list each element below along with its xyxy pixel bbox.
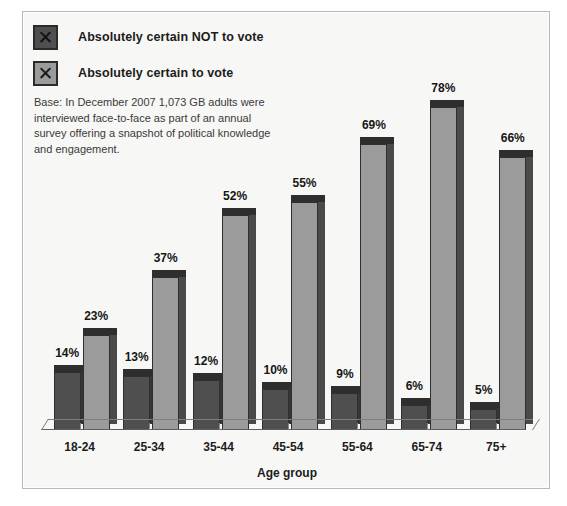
bar-top-face bbox=[54, 365, 81, 372]
bar-top-corner bbox=[526, 150, 533, 157]
x-axis-tick bbox=[496, 423, 497, 430]
bar-value-label: 78% bbox=[431, 81, 455, 95]
bar-75plus-series2: 66% bbox=[499, 157, 526, 430]
bar-top-corner bbox=[387, 137, 394, 144]
bar-side-face bbox=[318, 196, 325, 424]
bar-front-face bbox=[83, 335, 110, 430]
x-axis-tick bbox=[80, 423, 81, 430]
bar-65-74-series2: 78% bbox=[430, 107, 457, 430]
bar-35-44-series2: 52% bbox=[222, 215, 249, 430]
axis-floor bbox=[41, 419, 533, 430]
bar-top-face bbox=[222, 208, 249, 215]
bar-top-face bbox=[401, 398, 428, 405]
x-axis-label-75plus: 75+ bbox=[486, 440, 506, 454]
bar-front-face bbox=[430, 107, 457, 430]
bar-value-label: 12% bbox=[194, 354, 218, 368]
x-axis-label-18-24: 18-24 bbox=[64, 440, 95, 454]
bar-value-label: 55% bbox=[292, 176, 316, 190]
bar-front-face bbox=[360, 144, 387, 430]
bar-top-face bbox=[83, 328, 110, 335]
bar-25-34-series2: 37% bbox=[152, 277, 179, 430]
bar-front-face bbox=[291, 202, 318, 430]
bar-top-corner bbox=[318, 195, 325, 202]
bar-top-corner bbox=[110, 328, 117, 335]
bar-top-face bbox=[499, 150, 526, 157]
x-axis-title: Age group bbox=[23, 466, 551, 480]
bar-value-label: 5% bbox=[475, 383, 492, 397]
x-axis-label-35-44: 35-44 bbox=[203, 440, 234, 454]
bar-side-face bbox=[179, 271, 186, 424]
bar-value-label: 10% bbox=[263, 363, 287, 377]
x-axis-label-55-64: 55-64 bbox=[342, 440, 373, 454]
bar-value-label: 52% bbox=[223, 189, 247, 203]
plot-area: 14%23%13%37%12%52%10%55%9%69%6%78%5%66% … bbox=[23, 12, 551, 490]
bar-side-face bbox=[249, 209, 256, 424]
x-axis-label-45-54: 45-54 bbox=[273, 440, 304, 454]
bar-side-face bbox=[110, 329, 117, 424]
x-axis-labels: 18-2425-3435-4445-5455-6465-7475+ bbox=[41, 440, 533, 460]
bar-value-label: 69% bbox=[362, 118, 386, 132]
bar-top-face bbox=[331, 386, 358, 393]
x-axis-tick bbox=[149, 423, 150, 430]
chart-frame: ✕ Absolutely certain NOT to vote ✕ Absol… bbox=[22, 11, 550, 489]
bar-value-label: 6% bbox=[406, 379, 423, 393]
floor-baseline bbox=[41, 429, 526, 430]
bar-top-corner bbox=[249, 208, 256, 215]
bar-front-face bbox=[222, 215, 249, 430]
bar-18-24-series2: 23% bbox=[83, 335, 110, 430]
bar-top-face bbox=[262, 382, 289, 389]
bar-value-label: 37% bbox=[154, 251, 178, 265]
x-axis-label-65-74: 65-74 bbox=[411, 440, 442, 454]
bar-value-label: 13% bbox=[125, 350, 149, 364]
bar-side-face bbox=[526, 151, 533, 424]
bar-55-64-series2: 69% bbox=[360, 144, 387, 430]
x-axis-tick bbox=[427, 423, 428, 430]
bar-top-face bbox=[123, 369, 150, 376]
bar-front-face bbox=[152, 277, 179, 430]
bar-top-corner bbox=[457, 100, 464, 107]
x-axis-tick bbox=[357, 423, 358, 430]
bar-top-corner bbox=[179, 270, 186, 277]
bar-value-label: 9% bbox=[336, 367, 353, 381]
bar-top-face bbox=[430, 100, 457, 107]
floor-top-edge bbox=[48, 419, 533, 420]
bar-top-face bbox=[193, 373, 220, 380]
bar-value-label: 23% bbox=[84, 309, 108, 323]
bar-value-label: 14% bbox=[55, 346, 79, 360]
bar-top-face bbox=[152, 270, 179, 277]
bar-side-face bbox=[457, 101, 464, 424]
bar-top-face bbox=[360, 137, 387, 144]
bar-value-label: 66% bbox=[501, 131, 525, 145]
bar-top-face bbox=[470, 402, 497, 409]
x-axis-label-25-34: 25-34 bbox=[134, 440, 165, 454]
bar-top-face bbox=[291, 195, 318, 202]
bar-45-54-series2: 55% bbox=[291, 202, 318, 430]
x-axis-tick bbox=[219, 423, 220, 430]
bar-side-face bbox=[387, 138, 394, 424]
bar-front-face bbox=[499, 157, 526, 430]
x-axis-tick bbox=[288, 423, 289, 430]
